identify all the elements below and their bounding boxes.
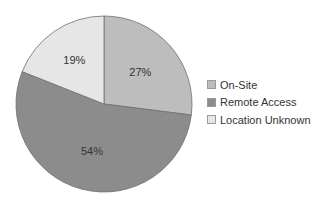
slice-percent-label: 19%: [63, 54, 85, 66]
legend-swatch: [207, 115, 216, 124]
legend-item-remote-access: Remote Access: [207, 94, 311, 112]
legend-swatch: [207, 80, 216, 89]
legend-label: Location Unknown: [220, 114, 311, 126]
legend-label: On-Site: [220, 79, 257, 91]
legend-item-location-unknown: Location Unknown: [207, 111, 311, 129]
slice-percent-label: 54%: [81, 145, 103, 157]
legend-swatch: [207, 98, 216, 107]
pie-chart: 27%54%19%: [0, 0, 210, 205]
legend-item-on-site: On-Site: [207, 76, 311, 94]
legend: On-Site Remote Access Location Unknown: [207, 76, 311, 129]
slice-percent-label: 27%: [129, 66, 151, 78]
legend-label: Remote Access: [220, 96, 296, 108]
